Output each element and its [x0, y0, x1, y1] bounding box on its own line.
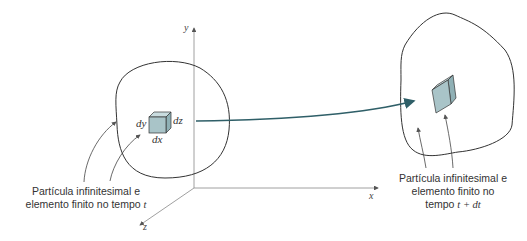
left-cube: [149, 112, 171, 133]
right-deformed-element: [432, 75, 456, 113]
dx-label: dx: [152, 133, 162, 145]
right-fluid-region: [401, 13, 515, 156]
right-leader-arrows: [418, 115, 453, 168]
coordinate-axes: [140, 28, 378, 225]
y-axis-label: y: [184, 22, 188, 33]
z-axis-label: z: [143, 221, 147, 232]
left-leader-arrows: [84, 122, 140, 182]
left-caption: Partícula infinitesimal e elemento finit…: [2, 185, 170, 211]
dz-label: dz: [173, 114, 183, 126]
x-axis-label: x: [369, 190, 373, 201]
right-caption: Partícula infinitesimal e elemento finit…: [378, 172, 527, 211]
dy-label: dy: [136, 117, 146, 129]
